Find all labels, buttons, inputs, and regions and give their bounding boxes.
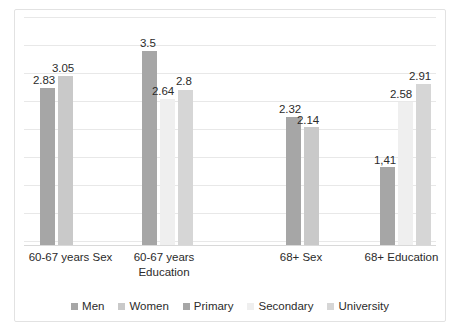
legend-label: Primary	[194, 300, 234, 312]
bar-label-university-60-67: 2.8	[176, 75, 192, 87]
bar-university-60-67[interactable]	[178, 90, 193, 245]
legend-swatch-icon	[71, 303, 78, 310]
legend-item-secondary[interactable]: Secondary	[247, 300, 313, 312]
bar-label-men-60-67: 2.83	[33, 74, 55, 86]
bar-label-women-60-67: 3.05	[52, 62, 74, 74]
bar-label-university-68plus: 2.91	[409, 70, 431, 82]
x-axis-label-1: 60-67 years Education	[123, 250, 205, 279]
bars-layer: 2.83 3.05 3.5 2.64 2.8 2.32 2.14 1,41 2.…	[24, 12, 436, 245]
bar-label-men-68plus-education: 1,41	[374, 154, 396, 166]
x-axis-label-0: 60-67 years Sex	[18, 250, 123, 265]
bar-label-primary-60-67: 3.5	[140, 37, 156, 49]
bar-primary-60-67[interactable]	[142, 51, 157, 245]
bar-men-68plus[interactable]	[286, 117, 301, 245]
chart-container: 2.83 3.05 3.5 2.64 2.8 2.32 2.14 1,41 2.…	[0, 0, 459, 333]
legend-swatch-icon	[247, 303, 254, 310]
bar-label-women-68plus: 2.14	[297, 114, 319, 126]
bar-men-60-67[interactable]	[40, 88, 55, 245]
bar-university-68plus[interactable]	[416, 84, 431, 245]
legend-item-men[interactable]: Men	[71, 300, 104, 312]
legend-label: Women	[129, 300, 168, 312]
bar-women-68plus[interactable]	[304, 127, 319, 245]
bar-women-60-67[interactable]	[58, 76, 73, 245]
legend-item-university[interactable]: University	[327, 300, 388, 312]
legend-swatch-icon	[327, 303, 334, 310]
bar-label-secondary-68plus: 2.58	[390, 88, 412, 100]
legend-label: Men	[82, 300, 104, 312]
x-axis-label-3: 68+ Education	[349, 250, 454, 265]
bar-secondary-60-67[interactable]	[160, 99, 175, 245]
x-axis-labels: 60-67 years Sex 60-67 years Education 68…	[24, 250, 436, 294]
x-axis-label-2: 68+ Sex	[246, 250, 356, 265]
bar-men-68plus-education[interactable]	[380, 167, 395, 245]
legend-item-primary[interactable]: Primary	[183, 300, 234, 312]
bar-label-secondary-60-67: 2.64	[152, 85, 174, 97]
legend-item-women[interactable]: Women	[118, 300, 168, 312]
x-axis-line	[24, 245, 436, 246]
bar-secondary-68plus[interactable]	[398, 102, 413, 245]
legend-label: University	[338, 300, 388, 312]
legend-label: Secondary	[258, 300, 313, 312]
legend-swatch-icon	[118, 303, 125, 310]
chart-legend: Men Women Primary Secondary University	[24, 297, 436, 315]
legend-swatch-icon	[183, 303, 190, 310]
